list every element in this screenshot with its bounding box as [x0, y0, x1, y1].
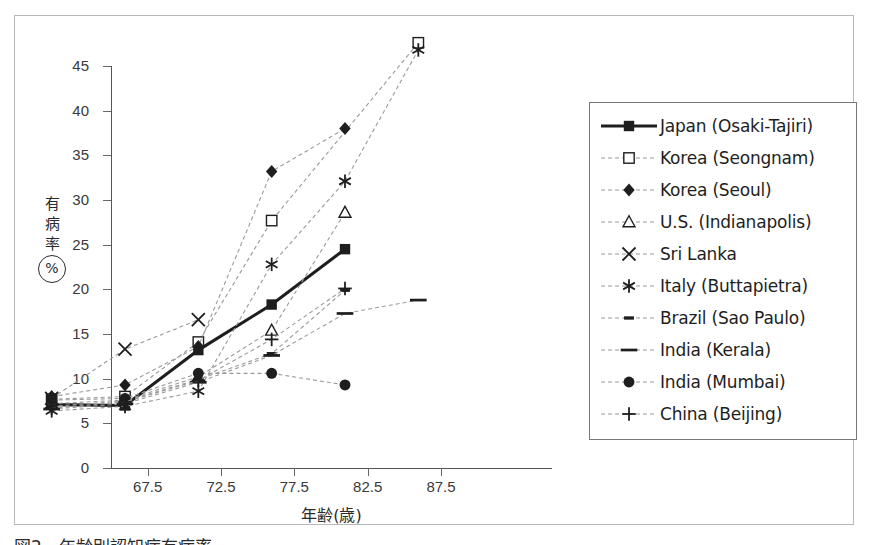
x-tick-label-82.5: 82.5	[333, 478, 403, 495]
marker-open-triangle	[339, 206, 351, 217]
legend-item-korea-seoul[interactable]: Korea (Seoul)	[598, 174, 848, 206]
x-tick-77.5	[294, 468, 295, 476]
marker-long-dash	[621, 349, 638, 352]
marker-cross-x	[119, 343, 132, 356]
y-tick-label-0: 0	[15, 459, 89, 476]
marker-cross-x	[192, 313, 205, 326]
legend: Japan (Osaki-Tajiri)Korea (Seongnam)Kore…	[589, 102, 857, 440]
y-tick-0	[103, 468, 111, 469]
marker-long-dash	[410, 299, 427, 302]
x-tick-label-87.5: 87.5	[406, 478, 476, 495]
legend-item-china-beijing[interactable]: China (Beijing)	[598, 398, 848, 430]
legend-marker-plus	[598, 402, 660, 426]
y-tick-5	[103, 423, 111, 424]
legend-label: Sri Lanka	[660, 244, 737, 264]
x-tick-82.5	[368, 468, 369, 476]
series-india-kerala	[43, 299, 426, 411]
marker-plus	[338, 282, 352, 296]
legend-marker-filled-circle	[598, 370, 660, 394]
legend-item-u-s-indianapolis[interactable]: U.S. (Indianapolis)	[598, 206, 848, 238]
legend-item-india-mumbai[interactable]: India (Mumbai)	[598, 366, 848, 398]
legend-item-korea-seongnam[interactable]: Korea (Seongnam)	[598, 142, 848, 174]
marker-filled-circle	[624, 377, 635, 388]
marker-long-dash	[337, 312, 354, 315]
marker-open-square	[266, 215, 276, 225]
marker-filled-square	[624, 121, 634, 131]
legend-marker-filled-square	[598, 114, 660, 138]
legend-marker-filled-diamond	[598, 178, 660, 202]
x-axis-spine	[111, 468, 552, 469]
legend-marker-open-square	[598, 146, 660, 170]
plot-canvas	[15, 16, 455, 418]
series-line	[52, 50, 419, 411]
x-tick-67.5	[148, 468, 149, 476]
legend-marker-cross-x	[598, 242, 660, 266]
legend-marker-asterisk	[598, 274, 660, 298]
x-axis-title: 年齢(歳)	[111, 502, 552, 526]
legend-label: Italy (Buttapietra)	[660, 276, 808, 296]
marker-filled-square	[266, 299, 276, 309]
legend-label: Japan (Osaki-Tajiri)	[660, 116, 813, 136]
marker-filled-circle	[340, 379, 351, 390]
marker-filled-circle	[266, 368, 277, 379]
legend-item-sri-lanka[interactable]: Sri Lanka	[598, 238, 848, 270]
legend-marker-long-dash	[598, 338, 660, 362]
series-line	[52, 300, 419, 409]
legend-item-japan-osaki-tajiri[interactable]: Japan (Osaki-Tajiri)	[598, 110, 848, 142]
legend-item-brazil-sao-paulo[interactable]: Brazil (Sao Paulo)	[598, 302, 848, 334]
marker-filled-diamond	[623, 184, 634, 197]
x-tick-label-72.5: 72.5	[186, 478, 256, 495]
marker-plus	[622, 407, 636, 421]
chart-area: 051015202530354045 67.572.577.582.587.5 …	[15, 16, 575, 526]
series-korea-seongnam	[46, 38, 423, 405]
series-line	[52, 129, 345, 397]
marker-short-dash	[624, 316, 634, 319]
figure-caption: 図2 年齢別認知症有病率	[14, 533, 514, 545]
legend-label: India (Mumbai)	[660, 372, 786, 392]
x-tick-87.5	[441, 468, 442, 476]
marker-filled-square	[340, 244, 350, 254]
marker-filled-diamond	[339, 122, 350, 135]
legend-label: Brazil (Sao Paulo)	[660, 308, 805, 328]
marker-filled-diamond	[119, 378, 130, 391]
x-tick-label-67.5: 67.5	[113, 478, 183, 495]
figure-frame: 051015202530354045 67.572.577.582.587.5 …	[14, 15, 854, 525]
legend-label: U.S. (Indianapolis)	[660, 212, 811, 232]
series-italy-buttapietra	[46, 43, 424, 417]
series-korea-seoul	[46, 122, 351, 403]
legend-label: China (Beijing)	[660, 404, 782, 424]
x-tick-label-77.5: 77.5	[259, 478, 329, 495]
legend-item-italy-buttapietra[interactable]: Italy (Buttapietra)	[598, 270, 848, 302]
legend-label: Korea (Seongnam)	[660, 148, 815, 168]
marker-filled-diamond	[266, 165, 277, 178]
series-line	[52, 43, 419, 399]
legend-label: Korea (Seoul)	[660, 180, 771, 200]
marker-open-triangle	[623, 216, 635, 227]
legend-item-india-kerala[interactable]: India (Kerala)	[598, 334, 848, 366]
legend-marker-short-dash	[598, 306, 660, 330]
marker-long-dash	[263, 354, 280, 357]
legend-marker-open-triangle	[598, 210, 660, 234]
marker-open-square	[624, 153, 634, 163]
legend-label: India (Kerala)	[660, 340, 771, 360]
x-tick-72.5	[221, 468, 222, 476]
